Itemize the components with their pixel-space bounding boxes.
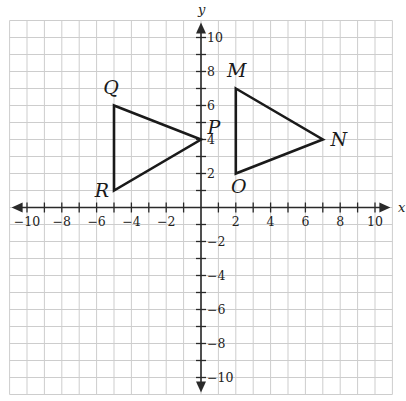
x-axis-label: x [398, 200, 406, 215]
vertex-label-r: R [94, 179, 109, 201]
y-tick-label: 10 [207, 30, 223, 45]
x-tick-label: −10 [14, 214, 40, 229]
x-tick-label: 6 [301, 214, 309, 229]
y-axis-up-arrow-icon [196, 23, 206, 34]
y-tick-label: −6 [207, 302, 225, 317]
triangle-PQR [114, 106, 201, 191]
x-tick-label: −6 [87, 214, 105, 229]
y-tick-label: −10 [207, 370, 233, 385]
triangle-MNO [236, 89, 323, 174]
x-tick-label: −8 [53, 214, 71, 229]
y-tick-label: 8 [207, 64, 215, 79]
coordinate-plane: −10−8−6−4−2246810108642−2−4−6−8−10 QPRMN… [0, 0, 406, 401]
y-tick-label: 2 [207, 166, 215, 181]
vertex-label-o: O [231, 175, 247, 197]
vertex-label-m: M [226, 59, 247, 81]
vertex-label-n: N [329, 128, 348, 150]
y-tick-label: −4 [207, 268, 225, 283]
vertex-label-q: Q [103, 76, 119, 98]
x-tick-label: 10 [367, 214, 383, 229]
y-tick-label: −2 [207, 234, 225, 249]
x-axis-left-arrow-icon [12, 203, 23, 213]
y-axis-down-arrow-icon [196, 382, 206, 393]
vertex-label-p: P [207, 116, 222, 138]
y-tick-label: 6 [207, 98, 215, 113]
x-axis-right-arrow-icon [379, 203, 390, 213]
x-tick-label: 4 [267, 214, 275, 229]
axes [12, 23, 391, 393]
x-tick-label: 2 [232, 214, 240, 229]
x-tick-label: 8 [336, 214, 344, 229]
x-tick-label: −2 [157, 214, 175, 229]
y-tick-label: −8 [207, 336, 225, 351]
y-axis-label: y [197, 2, 206, 17]
x-tick-label: −4 [122, 214, 140, 229]
